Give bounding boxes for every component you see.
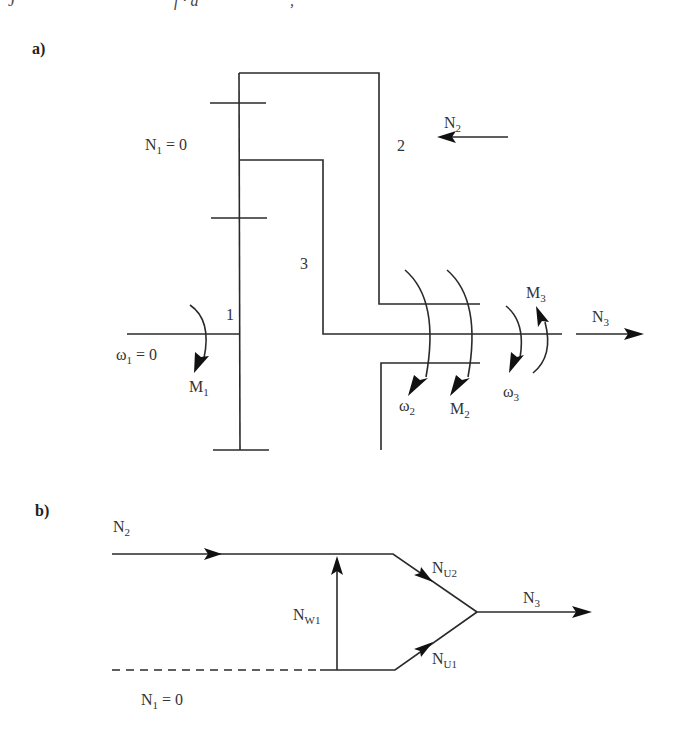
flow-n2-path [112, 554, 477, 612]
flow-nu2-arrowhead [414, 567, 433, 582]
label-part-1: 1 [226, 306, 234, 323]
omega3-rotation-arrow [506, 306, 524, 373]
label-n2-a: N2 [444, 114, 461, 134]
label-m3: M3 [526, 284, 546, 304]
m2-moment-arrow [447, 270, 472, 396]
label-omega1-zero: ω1 = 0 [116, 346, 157, 366]
label-n3-b: N3 [523, 589, 541, 609]
n2-force-arrow [437, 131, 508, 143]
label-n3-a: N3 [592, 308, 610, 328]
m3-moment-arrow [533, 306, 549, 373]
panel-a-label: a) [32, 40, 45, 58]
member-1-vertical [239, 73, 240, 450]
label-nw1: NW1 [293, 606, 320, 626]
label-n1-zero-b: N1 = 0 [141, 691, 183, 711]
svg-text:f · a: f · a [174, 0, 198, 10]
member-2-lower-sleeve [381, 363, 480, 450]
label-m1: M1 [189, 378, 209, 398]
label-part-2: 2 [397, 137, 405, 154]
gear-diagram: J f · a , a) [0, 0, 677, 747]
panel-b-label: b) [35, 502, 49, 520]
m1-moment-arrow [190, 305, 209, 373]
power-flow-diagram [112, 548, 592, 670]
label-part-3: 3 [300, 255, 308, 272]
label-nu2: NU2 [432, 559, 457, 579]
member-2-outline [239, 73, 480, 304]
label-omega3: ω3 [503, 383, 520, 403]
omega2-rotation-arrow [405, 270, 430, 396]
svg-text:,: , [290, 0, 294, 9]
top-text-fragment: J f · a , [8, 0, 294, 10]
svg-text:J: J [8, 0, 16, 9]
member-3-shaft [239, 160, 562, 334]
label-omega2: ω2 [399, 397, 415, 417]
label-m2: M2 [450, 400, 470, 420]
label-n1-zero: N1 = 0 [145, 136, 187, 156]
n3-force-arrow [576, 328, 644, 340]
label-n2-b: N2 [113, 518, 130, 538]
label-nu1: NU1 [432, 650, 457, 670]
